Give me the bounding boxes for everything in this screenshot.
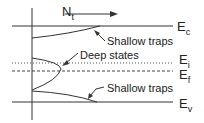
ei-label: Ei bbox=[179, 53, 190, 68]
ev-label: Ev bbox=[179, 97, 192, 112]
lower-shallow-traps-label: Shallow traps bbox=[107, 83, 173, 94]
upper-trap-curve bbox=[32, 26, 100, 38]
lower-trap-curve bbox=[32, 91, 97, 102]
trap-density-diagram: Nt Ec Ei Ef Ev Shallow traps Deep states… bbox=[0, 0, 204, 123]
ec-label: Ec bbox=[177, 20, 190, 35]
deep-states-label: Deep states bbox=[80, 50, 139, 61]
diagram-graphics bbox=[0, 0, 204, 123]
ef-label: Ef bbox=[179, 68, 190, 83]
nt-arrow-head-icon bbox=[110, 11, 118, 17]
upper-shallow-traps-label: Shallow traps bbox=[107, 36, 173, 47]
nt-label: Nt bbox=[62, 5, 74, 20]
lower-trap-leader bbox=[90, 87, 104, 96]
deep-leader bbox=[66, 53, 78, 63]
